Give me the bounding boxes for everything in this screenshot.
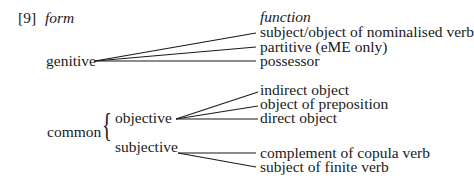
connector-lines (0, 0, 471, 183)
